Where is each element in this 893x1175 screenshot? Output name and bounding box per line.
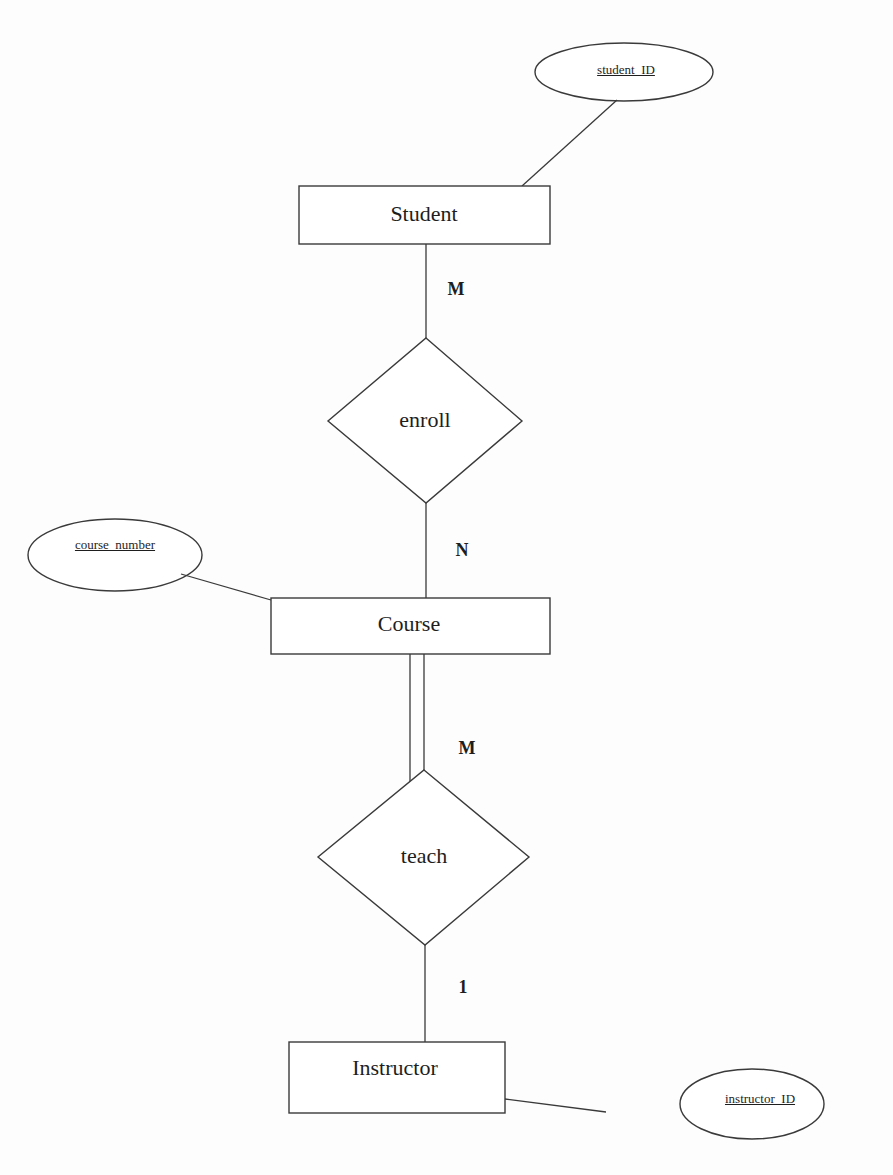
instructor-id-label: instructor_ID [725,1091,795,1107]
course-number-attribute-ellipse [28,519,202,591]
diagram-canvas [0,0,893,1175]
course-number-connector [181,574,271,600]
enroll-relationship-label: enroll [399,407,450,433]
er-diagram: student_ID Student M enroll N course_num… [0,0,893,1175]
cardinality-course-teach: M [459,738,476,759]
cardinality-student-enroll: M [448,279,465,300]
cardinality-enroll-course: N [456,540,469,561]
teach-relationship-label: teach [401,843,447,869]
course-number-label: course_number [75,537,155,553]
instructor-id-connector [505,1099,606,1112]
instructor-entity-label: Instructor [352,1055,438,1081]
cardinality-teach-instructor: 1 [459,977,468,998]
student-entity-label: Student [390,201,457,227]
student-id-label: student_ID [597,62,655,78]
student-id-connector [522,100,617,186]
course-entity-label: Course [378,611,440,637]
